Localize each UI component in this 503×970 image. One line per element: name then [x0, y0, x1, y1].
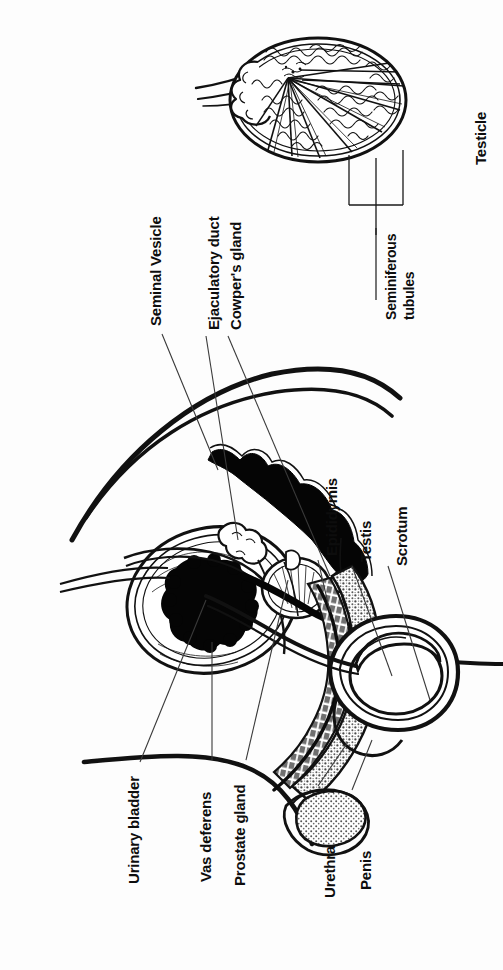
label-penis: Penis	[358, 851, 373, 890]
label-scrotum: Scrotum	[394, 507, 409, 566]
diagram-canvas	[0, 0, 503, 970]
label-epididymis: Epididymis	[324, 478, 339, 556]
ejaculatory-duct	[286, 550, 300, 569]
label-vas-deferens: Vas deferens	[198, 792, 213, 882]
label-ejaculatory-duct: Ejaculatory duct	[206, 217, 221, 331]
label-urinary-bladder: Urinary bladder	[126, 776, 141, 884]
anatomy-illustration	[0, 0, 503, 970]
label-testicle: Testicle	[473, 112, 488, 165]
label-cowpers-gland: Cowper's gland	[228, 222, 243, 330]
label-prostate-gland: Prostate gland	[232, 785, 247, 886]
label-seminal-vesicle: Seminal Vesicle	[148, 216, 163, 326]
label-seminiferous-tubules-line1: Seminiferous	[384, 234, 398, 320]
cowpers-duct	[340, 538, 341, 572]
label-urethra: Urethra	[322, 846, 337, 898]
label-testis: Testis	[358, 521, 373, 562]
label-seminiferous-tubules-line2: tubules	[402, 272, 416, 320]
